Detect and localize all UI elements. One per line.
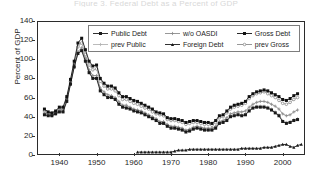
legend-marker-icon	[164, 40, 181, 49]
data-point	[125, 107, 128, 110]
data-point	[244, 113, 247, 116]
data-point	[54, 112, 57, 115]
data-point	[151, 111, 154, 114]
x-tick-label: 1990	[237, 158, 255, 167]
data-point	[266, 101, 269, 104]
data-point	[266, 92, 269, 95]
data-point	[121, 95, 124, 98]
data-point	[151, 117, 154, 120]
legend-item-gross-debt[interactable]: Gross Debt	[236, 29, 296, 38]
y-tick-mark	[32, 98, 35, 99]
data-point	[237, 103, 240, 106]
data-point	[129, 97, 132, 100]
legend-label: Public Debt	[111, 30, 147, 37]
data-point	[162, 122, 165, 125]
data-point	[199, 128, 202, 131]
legend-item-w-o-oasdi[interactable]: w/o OASDI	[164, 29, 236, 38]
data-point	[95, 77, 98, 80]
legend-item-foreign-debt[interactable]: Foreign Debt	[164, 40, 236, 49]
data-point	[118, 94, 121, 97]
x-tick-label: 1950	[88, 158, 106, 167]
legend-marker-icon	[92, 29, 109, 38]
data-point	[125, 98, 128, 101]
data-point	[99, 77, 102, 80]
data-point	[218, 114, 221, 117]
data-point	[278, 99, 281, 102]
data-point	[95, 74, 98, 77]
data-point	[103, 85, 106, 88]
data-point	[136, 100, 139, 103]
data-point	[270, 94, 273, 97]
data-point	[125, 95, 128, 98]
x-axis-ticks: 1940195019601970198019902000	[0, 157, 312, 171]
data-point	[54, 109, 57, 112]
legend-item-public-debt[interactable]: Public Debt	[92, 29, 164, 38]
legend-marker-icon	[236, 29, 253, 38]
data-point	[73, 60, 76, 63]
data-point	[88, 71, 91, 74]
data-point	[203, 129, 206, 132]
data-point	[171, 32, 174, 35]
data-point	[259, 106, 262, 109]
data-point	[95, 64, 98, 67]
y-tick-mark	[32, 40, 35, 41]
data-point	[132, 109, 135, 112]
x-tick-label: 1940	[50, 158, 68, 167]
data-point	[43, 113, 46, 116]
data-point	[285, 99, 288, 102]
data-point	[143, 104, 146, 107]
data-point	[166, 125, 169, 128]
x-tick-mark	[283, 153, 284, 156]
data-point	[236, 110, 239, 113]
legend-marker-icon	[92, 40, 109, 49]
data-point	[192, 128, 195, 131]
legend-item-prev-public[interactable]: prev Public	[92, 40, 164, 49]
data-point	[99, 32, 102, 35]
data-point	[117, 103, 120, 106]
data-point	[88, 60, 91, 63]
data-point	[110, 85, 113, 88]
data-point	[117, 91, 120, 94]
data-point	[43, 108, 46, 111]
data-point	[214, 127, 217, 130]
data-point	[229, 115, 232, 118]
data-point	[266, 107, 269, 110]
chart-legend: Public Debtw/o OASDIGross Debtprev Publi…	[88, 25, 300, 52]
data-point	[285, 114, 288, 117]
data-point	[251, 107, 254, 110]
legend-marker-icon	[164, 29, 181, 38]
data-point	[132, 99, 135, 102]
data-point	[84, 60, 87, 63]
data-point	[103, 82, 106, 85]
data-point	[292, 94, 295, 97]
data-point	[188, 130, 191, 133]
data-point	[277, 95, 280, 98]
x-tick-mark	[245, 153, 246, 156]
data-point	[170, 127, 173, 130]
data-point	[222, 121, 225, 124]
y-tick-mark	[32, 155, 35, 156]
legend-marker-icon	[236, 40, 253, 49]
x-tick-label: 1960	[125, 158, 143, 167]
data-point	[281, 98, 284, 101]
data-point	[289, 101, 292, 104]
legend-row: Public Debtw/o OASDIGross Debt	[92, 28, 296, 39]
data-point	[170, 117, 173, 120]
data-point	[158, 122, 161, 125]
data-point	[136, 110, 139, 113]
data-point	[147, 106, 150, 109]
y-tick-mark	[32, 117, 35, 118]
data-point	[106, 96, 109, 99]
y-tick-mark	[32, 78, 35, 79]
data-point	[240, 114, 243, 117]
chart-title: Figure 3. Federal Debt as a Percent of G…	[0, 0, 312, 7]
data-point	[58, 110, 61, 113]
data-point	[125, 104, 128, 107]
data-point	[281, 120, 284, 123]
data-point	[270, 91, 273, 94]
legend-item-prev-gross[interactable]: prev Gross	[236, 40, 296, 49]
data-point	[251, 92, 254, 95]
data-point	[62, 110, 65, 113]
data-point	[173, 117, 176, 120]
x-tick-label: 2000	[274, 158, 292, 167]
